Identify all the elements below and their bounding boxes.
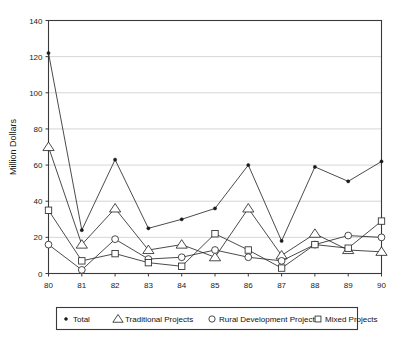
y-tick-label: 20 <box>34 233 43 242</box>
legend-item-traditional-projects[interactable]: Traditional Projects <box>113 314 193 324</box>
marker-circle <box>245 254 252 261</box>
x-tick-label: 80 <box>44 281 53 290</box>
x-tick-label: 84 <box>177 281 186 290</box>
marker-dot <box>147 227 150 230</box>
x-tick-label: 88 <box>310 281 319 290</box>
y-tick-label: 40 <box>34 197 43 206</box>
marker-dot <box>280 239 283 242</box>
marker-circle <box>178 254 185 261</box>
y-tick-label: 0 <box>38 270 43 279</box>
marker-dot <box>80 229 83 232</box>
y-tick-label: 140 <box>29 17 43 26</box>
marker-dot <box>247 163 250 166</box>
y-tick-label: 80 <box>34 125 43 134</box>
marker-square <box>378 218 384 224</box>
legend-label: Total <box>73 315 90 324</box>
legend-item-mixed-projects[interactable]: Mixed Projects <box>315 315 377 324</box>
marker-circle <box>212 247 219 254</box>
marker-square <box>112 250 118 256</box>
x-tick-label: 90 <box>377 281 386 290</box>
x-tick-label: 81 <box>77 281 86 290</box>
marker-square <box>312 241 318 247</box>
marker-square <box>179 263 185 269</box>
marker-square <box>45 207 51 213</box>
marker-circle <box>345 232 352 239</box>
marker-square <box>278 265 284 271</box>
marker-dot <box>347 180 350 183</box>
y-axis-title: Million Dollars <box>8 118 18 175</box>
x-tick-label: 86 <box>244 281 253 290</box>
y-tick-label: 100 <box>29 89 43 98</box>
x-tick-label: 87 <box>277 281 286 290</box>
y-axis-title-text: Million Dollars <box>8 118 18 175</box>
marker-square <box>315 316 321 322</box>
marker-circle <box>378 234 385 241</box>
x-tick-label: 89 <box>344 281 353 290</box>
marker-circle <box>278 257 285 264</box>
legend-label: Rural Development Projects <box>219 315 319 324</box>
marker-dot <box>65 318 68 321</box>
marker-circle <box>78 266 85 273</box>
marker-square <box>79 258 85 264</box>
marker-square <box>212 231 218 237</box>
marker-circle <box>112 236 119 243</box>
marker-dot <box>47 51 50 54</box>
marker-circle <box>45 241 52 248</box>
marker-dot <box>313 165 316 168</box>
marker-dot <box>213 207 216 210</box>
legend-label: Traditional Projects <box>125 315 193 324</box>
marker-dot <box>114 158 117 161</box>
x-tick-label: 82 <box>111 281 120 290</box>
y-tick-label: 60 <box>34 161 43 170</box>
marker-square <box>245 247 251 253</box>
y-tick-label: 120 <box>29 53 43 62</box>
x-tick-label: 85 <box>211 281 220 290</box>
legend-item-rural-development-projects[interactable]: Rural Development Projects <box>209 315 319 324</box>
line-chart-figure: 020406080100120140 808182838485868788899… <box>0 0 410 338</box>
marker-square <box>345 245 351 251</box>
marker-dot <box>180 218 183 221</box>
legend-label: Mixed Projects <box>325 315 377 324</box>
marker-circle <box>209 316 215 322</box>
marker-dot <box>380 160 383 163</box>
x-tick-label: 83 <box>144 281 153 290</box>
marker-square <box>145 259 151 265</box>
